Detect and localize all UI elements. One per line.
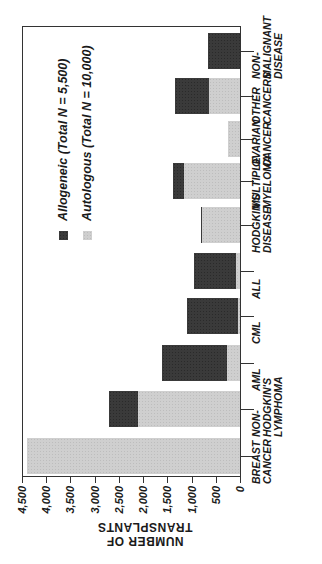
bar-allogeneic — [194, 253, 236, 289]
category-axis-line — [240, 26, 241, 479]
value-tick-label: 3,500 — [64, 486, 78, 516]
category-label: NON-MALIGNANTDISEASE — [251, 16, 284, 79]
category-tick — [240, 363, 254, 364]
bar-allogeneic — [187, 298, 238, 334]
category-label: AML — [251, 368, 262, 391]
value-tick — [46, 477, 47, 483]
bar-autologous — [227, 345, 240, 381]
category-label: CML — [251, 321, 262, 344]
bar-autologous — [209, 78, 240, 114]
value-tick-label: 1,500 — [161, 486, 175, 516]
value-tick — [240, 477, 241, 483]
bar-allogeneic — [173, 163, 184, 199]
bar-autologous — [27, 438, 240, 474]
bar-autologous — [202, 207, 240, 243]
value-tick — [22, 477, 23, 483]
category-label: ALL — [251, 279, 262, 299]
value-tick — [216, 477, 217, 483]
legend-swatch — [83, 231, 92, 240]
bar-autologous — [184, 163, 240, 199]
bar-allogeneic — [208, 33, 240, 69]
category-tick — [240, 316, 254, 317]
value-axis-line — [22, 476, 241, 477]
legend-item: Allogeneic (Total N = 5,500) — [56, 59, 70, 240]
legend-swatch — [59, 231, 68, 240]
legend-label: Allogeneic (Total N = 5,500) — [56, 59, 70, 221]
legend-label: Autologous (Total N = 10,000) — [80, 45, 94, 221]
category-label: OTHERCANCERS — [251, 72, 273, 124]
value-tick-label: 2,000 — [137, 486, 151, 516]
bar-autologous — [228, 121, 240, 157]
value-tick-label: 0 — [234, 486, 248, 516]
value-tick-label: 4,000 — [40, 486, 54, 516]
category-tick — [240, 271, 254, 272]
value-tick — [192, 477, 193, 483]
value-tick — [95, 477, 96, 483]
category-label: OVARIANCANCER — [251, 119, 273, 167]
value-axis-title: NUMBER OF TRANSPLANTS — [60, 520, 230, 548]
transplant-chart: 05001,0001,5002,0002,5003,0003,5004,0004… — [0, 0, 322, 564]
bar-allogeneic — [162, 345, 226, 381]
value-tick-label: 3,000 — [89, 486, 103, 516]
value-tick — [70, 477, 71, 483]
legend-item: Autologous (Total N = 10,000) — [80, 45, 94, 240]
category-label: BREASTCANCER — [251, 439, 273, 484]
value-tick — [167, 477, 168, 483]
value-tick — [119, 477, 120, 483]
value-tick-label: 500 — [210, 486, 224, 516]
value-tick-label: 1,000 — [186, 486, 200, 516]
bar-allogeneic — [175, 78, 209, 114]
bar-allogeneic — [201, 207, 202, 243]
bar-autologous — [138, 391, 240, 427]
value-tick-label: 4,500 — [16, 486, 30, 516]
value-tick-label: 2,500 — [113, 486, 127, 516]
value-tick — [143, 477, 144, 483]
bar-allogeneic — [109, 391, 138, 427]
